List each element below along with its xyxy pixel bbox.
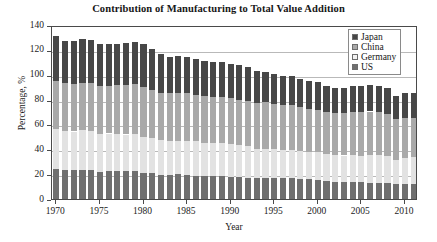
bar-segment-china <box>254 103 260 149</box>
bar-segment-japan <box>79 39 85 83</box>
bar-segment-japan <box>184 57 190 94</box>
bar-column <box>114 26 120 199</box>
chart-legend: JapanChinaGermanyUS <box>348 29 401 75</box>
bar-segment-us <box>254 178 260 199</box>
bar-segment-japan <box>245 67 251 100</box>
legend-swatch-icon <box>352 44 358 50</box>
bar-segment-japan <box>201 61 207 96</box>
bar-segment-germany <box>210 143 216 176</box>
bar-segment-germany <box>53 129 59 169</box>
legend-item-germany[interactable]: Germany <box>352 52 396 62</box>
bar-column <box>323 26 329 199</box>
bar-segment-us <box>175 174 181 199</box>
bar-segment-germany <box>376 155 382 183</box>
bar-segment-us <box>367 183 373 199</box>
bar-segment-japan <box>297 79 303 107</box>
x-tick-mark <box>143 200 144 204</box>
x-tick-label: 1980 <box>123 206 163 216</box>
bar-segment-japan <box>158 54 164 93</box>
bar-segment-japan <box>140 44 146 87</box>
bar-segment-germany <box>175 141 181 175</box>
bar-segment-japan <box>411 93 417 118</box>
bar-segment-us <box>315 180 321 199</box>
legend-item-china[interactable]: China <box>352 42 396 52</box>
bar-segment-china <box>62 83 68 131</box>
bar-segment-china <box>88 83 94 131</box>
x-tick-label: 2005 <box>340 206 380 216</box>
bar-column <box>341 26 347 199</box>
bar-segment-us <box>411 184 417 199</box>
bar-segment-china <box>175 93 181 140</box>
bar-segment-japan <box>280 76 286 105</box>
bar-segment-japan <box>228 64 234 99</box>
bar-segment-us <box>332 182 338 199</box>
bar-segment-japan <box>315 82 321 109</box>
bar-column <box>123 26 129 199</box>
bar-segment-us <box>158 175 164 199</box>
bar-segment-china <box>114 85 120 133</box>
bar-column <box>132 26 138 199</box>
bar-segment-germany <box>271 149 277 178</box>
bar-segment-us <box>236 177 242 199</box>
bar-column <box>79 26 85 199</box>
bar-segment-us <box>376 183 382 199</box>
bar-segment-japan <box>367 85 373 111</box>
bar-segment-germany <box>315 152 321 180</box>
bar-column <box>62 26 68 199</box>
legend-item-us[interactable]: US <box>352 62 396 72</box>
bar-segment-china <box>306 109 312 152</box>
bar-segment-germany <box>367 155 373 183</box>
bar-segment-china <box>210 97 216 143</box>
bar-segment-germany <box>350 155 356 182</box>
bar-segment-japan <box>106 44 112 86</box>
bar-segment-us <box>201 176 207 199</box>
bar-segment-japan <box>123 43 129 85</box>
bar-segment-japan <box>332 88 338 113</box>
x-tick-label: 1995 <box>253 206 293 216</box>
bar-column <box>71 26 77 199</box>
bar-segment-us <box>88 170 94 199</box>
bar-segment-japan <box>254 71 260 103</box>
bar-segment-japan <box>358 86 364 112</box>
bar-column <box>175 26 181 199</box>
bar-segment-germany <box>289 150 295 178</box>
bar-column <box>158 26 164 199</box>
y-tick-label: 20 <box>3 169 44 179</box>
bar-segment-us <box>193 176 199 199</box>
bar-segment-japan <box>97 44 103 86</box>
bar-segment-us <box>79 170 85 199</box>
chart-title: Contribution of Manufacturing to Total V… <box>0 3 437 14</box>
bar-column <box>254 26 260 199</box>
bar-column <box>106 26 112 199</box>
bar-segment-us <box>262 178 268 199</box>
bar-segment-china <box>402 118 408 158</box>
bar-segment-china <box>245 101 251 147</box>
bar-segment-japan <box>167 57 173 94</box>
bar-segment-china <box>393 119 399 160</box>
bar-segment-japan <box>289 76 295 105</box>
bar-segment-japan <box>402 93 408 118</box>
bar-segment-china <box>262 102 268 149</box>
bar-segment-china <box>384 114 390 157</box>
bar-segment-china <box>79 83 85 131</box>
bar-segment-us <box>210 176 216 199</box>
bar-segment-germany <box>411 157 417 183</box>
bar-segment-china <box>289 105 295 150</box>
bar-segment-us <box>71 170 77 199</box>
bar-segment-germany <box>262 149 268 178</box>
bar-segment-us <box>306 179 312 199</box>
x-tick-mark <box>186 200 187 204</box>
bar-segment-china <box>228 98 234 143</box>
bar-segment-germany <box>114 134 120 171</box>
bar-column <box>236 26 242 199</box>
x-tick-label: 1970 <box>35 206 75 216</box>
bar-segment-china <box>297 107 303 151</box>
bar-segment-china <box>140 87 146 137</box>
bar-segment-japan <box>88 40 94 84</box>
bar-segment-germany <box>88 131 94 171</box>
bar-segment-china <box>315 110 321 152</box>
y-tick-label: 60 <box>3 119 44 129</box>
legend-item-japan[interactable]: Japan <box>352 32 396 42</box>
bar-segment-us <box>106 171 112 199</box>
bar-segment-china <box>219 97 225 143</box>
